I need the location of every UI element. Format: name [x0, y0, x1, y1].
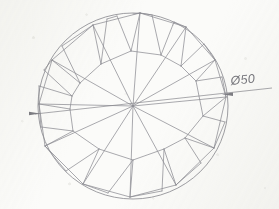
- upper-girdle-facet-39: [62, 25, 93, 46]
- diameter-dimension: Ø50: [29, 71, 272, 115]
- diameter-dimension-label: Ø50: [229, 71, 256, 88]
- upper-girdle-facet-30: [41, 127, 73, 131]
- upper-girdle-facet-40: [93, 25, 101, 64]
- upper-girdle-facet-9: [181, 44, 204, 66]
- inner-chord-8: [99, 149, 133, 160]
- main-facet-spoke-2: [133, 27, 186, 106]
- inner-chord-11: [70, 96, 72, 109]
- main-facet-spoke-6: [133, 106, 176, 185]
- upper-girdle-facet-11: [196, 60, 215, 81]
- upper-girdle-facet-2: [117, 16, 131, 51]
- inner-chord-13: [80, 64, 101, 83]
- upper-girdle-facet-29: [45, 131, 73, 146]
- inner-chord-12: [72, 83, 80, 96]
- dimension-line: [35, 88, 272, 114]
- upper-girdle-facet-24: [108, 160, 133, 193]
- inner-chord-9: [73, 131, 99, 149]
- star-facet-chord-12: [52, 25, 93, 60]
- upper-girdle-facet-17: [185, 138, 214, 148]
- star-facet-chord-4: [215, 60, 226, 97]
- upper-girdle-facet-7: [174, 22, 186, 27]
- upper-girdle-facet-21: [162, 149, 164, 191]
- inner-chord-6: [164, 138, 185, 149]
- upper-girdle-facet-41: [101, 19, 107, 64]
- inner-chord-1: [131, 51, 161, 55]
- gemstone-facet-drawing: Ø50: [0, 0, 279, 209]
- inner-chord-2: [161, 55, 181, 66]
- upper-girdle-facet-12: [196, 77, 222, 81]
- upper-girdle-facet-37: [52, 60, 80, 83]
- star-facet-chord-5: [214, 97, 226, 148]
- main-facet-spoke-7: [130, 106, 133, 197]
- upper-girdle-facet-28: [45, 146, 66, 171]
- inner-chord-4: [196, 81, 203, 116]
- upper-girdle-facet-5: [152, 15, 161, 55]
- upper-girdle-facet-6: [161, 22, 174, 55]
- star-facet-chord-9: [45, 146, 83, 184]
- upper-girdle-facet-10: [204, 44, 215, 60]
- drawing-sheet: Ø50: [0, 0, 279, 209]
- star-facet-chord-7: [130, 185, 176, 197]
- inner-chord-5: [185, 116, 203, 138]
- main-facet-spoke-11: [52, 60, 133, 106]
- star-facet-chord-3: [186, 27, 215, 60]
- inner-chord-3: [181, 66, 196, 81]
- upper-girdle-facet-18: [185, 138, 201, 163]
- main-facet-spoke-5: [133, 106, 214, 148]
- inner-chord-10: [70, 109, 73, 131]
- upper-girdle-facet-38: [62, 46, 80, 83]
- inner-chord-14: [101, 51, 131, 64]
- star-facet-chord-2: [140, 13, 186, 27]
